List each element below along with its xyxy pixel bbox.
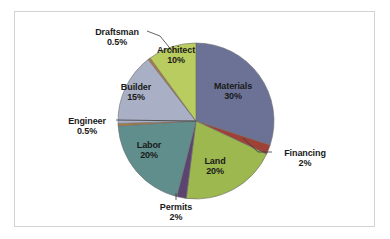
slice-label-land-percent: 20%	[192, 166, 238, 176]
slice-label-engineer: Engineer 0.5%	[58, 116, 116, 136]
slice-label-permits: Permits 2%	[150, 202, 202, 222]
slice-label-architect: Architect 10%	[148, 45, 204, 65]
slice-label-architect-name: Architect	[148, 45, 204, 55]
slice-label-builder-percent: 15%	[110, 92, 162, 102]
slice-label-materials-percent: 30%	[203, 91, 263, 101]
pie-chart-figure: Materials 30% Architect 10% Builder 15% …	[0, 0, 390, 239]
slice-label-labor-percent: 20%	[125, 150, 173, 160]
slice-label-financing-percent: 2%	[274, 158, 336, 168]
slice-label-engineer-name: Engineer	[58, 116, 116, 126]
slice-label-labor-name: Labor	[125, 140, 173, 150]
slice-label-engineer-percent: 0.5%	[58, 126, 116, 136]
slice-label-builder: Builder 15%	[110, 82, 162, 102]
slice-label-materials-name: Materials	[203, 81, 263, 91]
slice-label-architect-percent: 10%	[148, 55, 204, 65]
slice-label-draftsman: Draftsman 0.5%	[86, 27, 148, 47]
slice-label-permits-percent: 2%	[150, 212, 202, 222]
slice-label-builder-name: Builder	[110, 82, 162, 92]
slice-label-draftsman-name: Draftsman	[86, 27, 148, 37]
slice-label-materials: Materials 30%	[203, 81, 263, 101]
slice-label-permits-name: Permits	[150, 202, 202, 212]
slice-label-land: Land 20%	[192, 156, 238, 176]
slice-label-financing-name: Financing	[274, 148, 336, 158]
slice-label-financing: Financing 2%	[274, 148, 336, 168]
slice-label-labor: Labor 20%	[125, 140, 173, 160]
slice-label-draftsman-percent: 0.5%	[86, 37, 148, 47]
slice-label-land-name: Land	[192, 156, 238, 166]
